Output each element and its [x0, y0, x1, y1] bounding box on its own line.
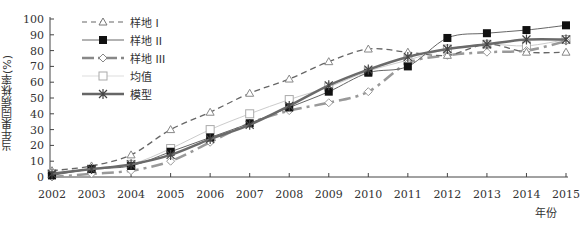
legend-label: 模型 — [130, 86, 152, 102]
square-marker-icon — [404, 62, 412, 70]
diamond-marker-icon — [325, 99, 333, 107]
triangle-marker-icon — [127, 151, 135, 158]
x-tick-label: 2002 — [38, 188, 66, 201]
legend-item-plot-1: 样地 I — [80, 13, 165, 31]
asterisk-marker-icon — [80, 88, 126, 100]
triangle-marker-icon — [246, 89, 254, 96]
legend-label: 样地 I — [130, 14, 159, 30]
square-marker-icon — [483, 29, 491, 37]
x-tick-label: 2007 — [236, 188, 264, 201]
triangle-marker-icon — [285, 75, 293, 82]
y-tick-label: 0 — [37, 171, 44, 184]
x-tick-label: 2010 — [354, 188, 382, 201]
dashed-triangle-marker-icon — [80, 16, 126, 28]
filled-square-marker-icon — [80, 34, 126, 46]
legend-item-plot-2: 样地 II — [80, 31, 165, 49]
legend-label: 样地 II — [130, 32, 162, 48]
x-tick-label: 2006 — [196, 188, 224, 201]
y-tick-label: 70 — [30, 60, 44, 73]
dashdot-diamond-marker-icon — [80, 52, 126, 64]
open-square-marker-icon — [246, 110, 254, 118]
square-marker-icon — [443, 34, 451, 42]
square-marker-icon — [522, 26, 530, 34]
legend: 样地 I 样地 II 样地 III 均值 模型 — [80, 13, 165, 103]
square-marker-icon — [562, 21, 570, 29]
triangle-marker-icon — [562, 48, 570, 55]
legend-label: 样地 III — [130, 50, 165, 66]
y-tick-label: 90 — [30, 29, 44, 42]
y-tick-label: 40 — [30, 108, 44, 121]
y-tick-label: 80 — [30, 45, 44, 58]
x-tick-label: 2011 — [394, 188, 422, 201]
x-tick-label: 2003 — [78, 188, 106, 201]
y-tick-label: 30 — [30, 124, 44, 137]
y-tick-label: 60 — [30, 76, 44, 89]
y-axis-label: 当年果园病株率(%) — [0, 28, 22, 178]
x-tick-label: 2009 — [315, 188, 343, 201]
y-tick-label: 50 — [30, 92, 44, 105]
legend-item-model: 模型 — [80, 85, 165, 103]
x-tick-label: 2012 — [433, 188, 461, 201]
open-square-marker-icon — [206, 126, 214, 134]
x-axis-label: 年份 — [535, 204, 557, 220]
x-tick-label: 2008 — [275, 188, 303, 201]
triangle-marker-icon — [167, 126, 175, 133]
y-tick-label: 10 — [30, 155, 44, 168]
open-square-marker-icon — [80, 70, 126, 82]
y-tick-label: 100 — [23, 13, 44, 26]
x-tick-label: 2014 — [512, 188, 540, 201]
x-tick-label: 2013 — [473, 188, 501, 201]
x-tick-label: 2004 — [117, 188, 145, 201]
triangle-marker-icon — [206, 108, 214, 115]
legend-label: 均值 — [130, 68, 152, 84]
legend-item-plot-3: 样地 III — [80, 49, 165, 67]
y-tick-label: 20 — [30, 139, 44, 152]
diamond-marker-icon — [483, 48, 491, 56]
legend-item-mean: 均值 — [80, 67, 165, 85]
x-tick-label: 2005 — [157, 188, 185, 201]
x-tick-label: 2015 — [552, 188, 580, 201]
